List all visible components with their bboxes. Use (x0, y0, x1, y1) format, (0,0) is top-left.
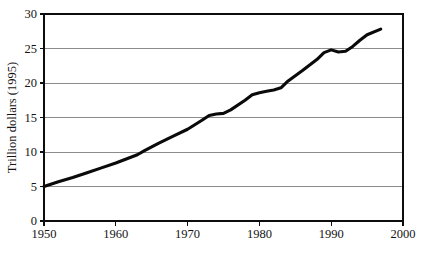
chart-figure: 051015202530 195019601970198019902000 Tr… (0, 0, 425, 254)
y-tick-label-5: 5 (31, 180, 37, 194)
x-tick-label-1970: 1970 (175, 227, 200, 241)
y-tick-label-30: 30 (25, 7, 38, 21)
x-tick-label-2000: 2000 (391, 227, 416, 241)
x-tick-label-1960: 1960 (103, 227, 128, 241)
y-tick-label-25: 25 (25, 42, 38, 56)
gridlines-group (44, 49, 403, 187)
y-tick-label-15: 15 (25, 111, 38, 125)
y-tick-label-20: 20 (25, 76, 38, 90)
x-tick-label-1980: 1980 (247, 227, 272, 241)
data-series-line (44, 29, 381, 186)
line-chart: 051015202530 195019601970198019902000 Tr… (0, 0, 425, 254)
y-tick-label-10: 10 (25, 145, 38, 159)
y-tick-labels-group: 051015202530 (25, 7, 38, 228)
x-tick-labels-group: 195019601970198019902000 (32, 227, 416, 241)
y-axis-title: Trillion dollars (1995) (5, 62, 19, 173)
x-tick-label-1950: 1950 (32, 227, 57, 241)
x-tick-label-1990: 1990 (319, 227, 344, 241)
